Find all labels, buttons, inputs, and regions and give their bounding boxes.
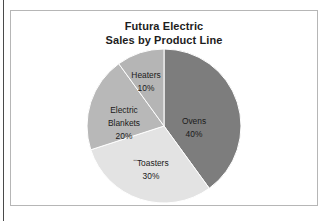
scanned-page: Futura Electric Sales by Product Line Ov… [0, 0, 328, 221]
pie-label-toasters-value: 30% [143, 171, 160, 181]
chart-title-line-2: Sales by Product Line [11, 33, 317, 47]
pie-label-heaters-value: 10% [138, 83, 155, 93]
pie-label-electric-blankets-line-1: Electric [110, 105, 137, 115]
pie-label-ovens-name: Ovens [182, 116, 206, 126]
pie-chart: Ovens 40% ▪▪Toasters 30% Electric Blanke… [84, 47, 244, 205]
pie-label-ovens-value: 40% [186, 129, 203, 139]
pie-label-toasters-name: ▪▪Toasters [133, 157, 168, 168]
page-edge-rule [3, 0, 4, 221]
pie-label-toasters-text: Toasters [137, 158, 169, 168]
pie-label-electric-blankets-line-2: Blankets [108, 118, 140, 128]
chart-title: Futura Electric Sales by Product Line [11, 19, 317, 47]
clipped-header-text [26, 0, 176, 5]
pie-label-heaters-name: Heaters [131, 70, 160, 80]
pie-label-electric-blankets-value: 20% [116, 131, 133, 141]
chart-title-line-1: Futura Electric [11, 19, 317, 33]
chart-figure-frame: Futura Electric Sales by Product Line Ov… [10, 10, 318, 206]
pie-chart-area: Ovens 40% ▪▪Toasters 30% Electric Blanke… [11, 47, 317, 205]
